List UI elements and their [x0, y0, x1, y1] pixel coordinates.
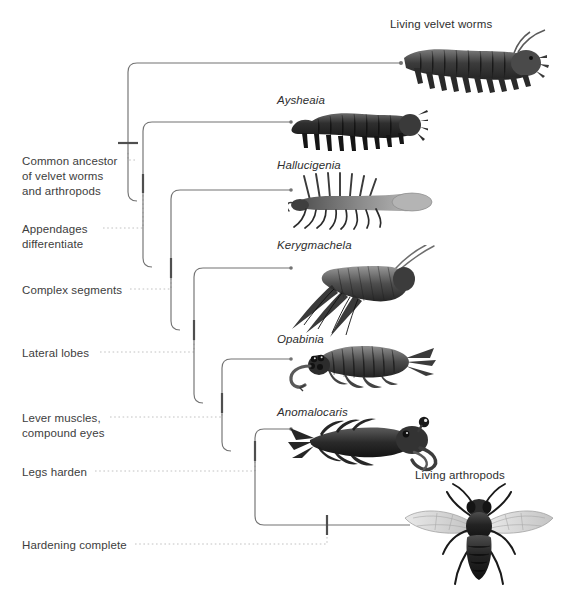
- trait-label-complex-segments: Complex segments: [22, 283, 122, 298]
- taxon-label-kerygmachela: Kerygmachela: [277, 239, 352, 251]
- trait-line-1: Hardening complete: [22, 539, 127, 551]
- branch-aysheaia: [143, 122, 291, 267]
- trait-line-3: and arthropods: [22, 185, 101, 197]
- branch-opabinia: [222, 359, 291, 451]
- taxon-label-aysheaia: Aysheaia: [277, 94, 325, 106]
- trait-line-2: of velvet worms: [22, 170, 103, 182]
- trait-line-1: Complex segments: [22, 284, 122, 296]
- organism-kerygmachela: [288, 245, 438, 340]
- organism-anomalocaris: [288, 412, 448, 474]
- trait-line-1: Common ancestor: [22, 155, 117, 167]
- branch-hallucigenia: [171, 190, 291, 330]
- trait-label-appendages-differentiate: Appendagesdifferentiate: [22, 222, 88, 252]
- trait-label-hardening-complete: Hardening complete: [22, 538, 127, 553]
- organism-fly: [403, 478, 555, 590]
- trait-label-lateral-lobes: Lateral lobes: [22, 346, 89, 361]
- taxon-label-anomalocaris: Anomalocaris: [277, 406, 348, 418]
- trait-label-common-ancestor: Common ancestorof velvet wormsand arthro…: [22, 154, 117, 199]
- trait-label-lever-muscles: Lever muscles,compound eyes: [22, 411, 105, 441]
- cladogram-figure: Living velvet worms Aysheaia Hallucigeni…: [0, 0, 566, 595]
- trait-line-1: Appendages: [22, 223, 88, 235]
- taxon-label-opabinia: Opabinia: [277, 333, 324, 345]
- taxon-label-velvet-worms: Living velvet worms: [390, 18, 492, 30]
- trait-line-1: Lateral lobes: [22, 347, 89, 359]
- taxon-label-hallucigenia: Hallucigenia: [277, 159, 341, 171]
- trait-label-legs-harden: Legs harden: [22, 465, 87, 480]
- organism-velvet-worm: [398, 28, 558, 96]
- organism-hallucigenia: [288, 168, 438, 230]
- trait-line-2: compound eyes: [22, 427, 105, 439]
- trait-line-1: Legs harden: [22, 466, 87, 478]
- trait-line-2: differentiate: [22, 238, 83, 250]
- taxon-label-arthropods: Living arthropods: [415, 469, 505, 481]
- trait-line-1: Lever muscles,: [22, 412, 101, 424]
- organism-aysheaia: [288, 100, 428, 152]
